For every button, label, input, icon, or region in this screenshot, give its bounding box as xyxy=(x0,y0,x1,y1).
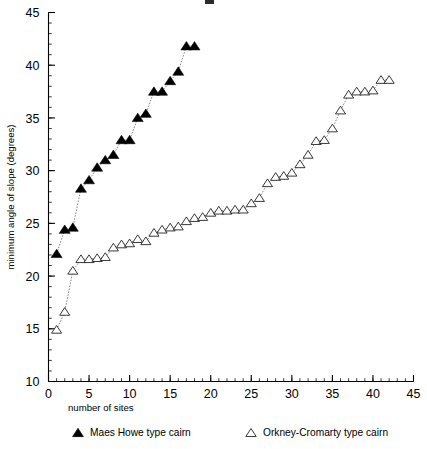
y-tick-label: 45 xyxy=(26,6,40,20)
x-tick-label: 20 xyxy=(204,387,218,401)
legend-label-orkney-cromarty: Orkney-Cromarty type cairn xyxy=(263,427,388,438)
y-tick-label: 30 xyxy=(26,164,40,178)
x-axis-title: number of sites xyxy=(68,402,134,413)
chart-figure: 1015202530354045 051015202530354045 mini… xyxy=(0,0,427,449)
scan-artifact-mark xyxy=(205,0,214,4)
x-tick-label: 35 xyxy=(325,387,339,401)
x-tick-label: 10 xyxy=(123,387,137,401)
y-tick-label: 40 xyxy=(26,59,40,73)
y-tick-label: 25 xyxy=(26,217,40,231)
x-tick-label: 0 xyxy=(45,387,52,401)
x-tick-label: 30 xyxy=(285,387,299,401)
y-tick-label: 15 xyxy=(26,322,40,336)
y-tick-label: 20 xyxy=(26,270,40,284)
y-tick-label: 35 xyxy=(26,112,40,126)
y-tick-label: 10 xyxy=(26,375,40,389)
y-axis-title: minimum angle of slope (degrees) xyxy=(5,124,16,269)
x-tick-label: 15 xyxy=(163,387,177,401)
x-tick-label: 45 xyxy=(407,387,421,401)
x-tick-label: 40 xyxy=(366,387,380,401)
legend-entry-orkney-cromarty: Orkney-Cromarty type cairn xyxy=(246,427,388,438)
legend-label-maes-howe: Maes Howe type cairn xyxy=(90,427,191,438)
x-tick-label: 25 xyxy=(244,387,258,401)
x-tick-label: 5 xyxy=(86,387,93,401)
legend-entry-maes-howe: Maes Howe type cairn xyxy=(73,427,191,438)
chart-canvas: 1015202530354045 051015202530354045 mini… xyxy=(0,0,427,449)
